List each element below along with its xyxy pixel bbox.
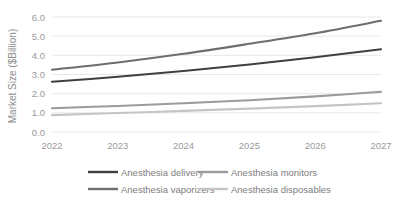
y-tick-label: 6.0 [32, 12, 45, 23]
line-chart: 0.01.02.03.04.05.06.0 202220232024202520… [0, 0, 400, 204]
x-tick-label: 2023 [107, 140, 128, 151]
x-tick-label: 2026 [305, 140, 326, 151]
y-tick-label: 1.0 [32, 107, 45, 118]
x-tick-label: 2022 [41, 140, 62, 151]
x-tick-label: 2027 [370, 140, 391, 151]
x-tick-label: 2025 [239, 140, 260, 151]
y-axis-title: Market Size ($Billion) [7, 29, 18, 123]
chart-canvas: 0.01.02.03.04.05.06.0 202220232024202520… [0, 0, 400, 204]
x-tick-label: 2024 [173, 140, 194, 151]
legend-label-anesthesia-monitors: Anesthesia monitors [231, 167, 317, 178]
y-tick-label: 4.0 [32, 50, 45, 61]
y-tick-label: 0.0 [32, 127, 45, 138]
legend-label-anesthesia-disposables: Anesthesia disposables [231, 184, 331, 195]
y-tick-label: 3.0 [32, 69, 45, 80]
legend-label-anesthesia-delivery: Anesthesia delivery [121, 167, 204, 178]
y-tick-label: 2.0 [32, 88, 45, 99]
y-tick-label: 5.0 [32, 31, 45, 42]
